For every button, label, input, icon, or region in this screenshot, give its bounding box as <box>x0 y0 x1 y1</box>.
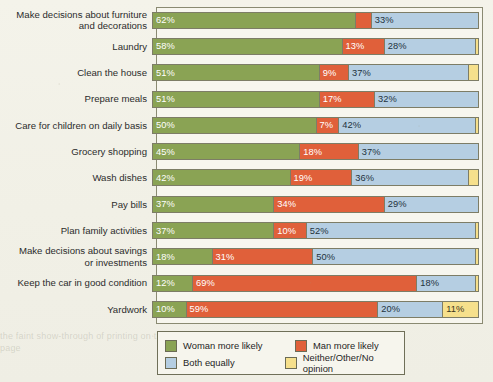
bar-segment-other[interactable]: 11% <box>442 302 478 317</box>
bar-segment-other[interactable] <box>475 223 478 238</box>
segment-value-label: 19% <box>291 173 313 183</box>
bar-segment-both[interactable]: 29% <box>384 197 478 212</box>
category-label: Care for children on daily basis <box>0 120 152 131</box>
bar-segment-both[interactable]: 33% <box>371 13 478 28</box>
bar-segment-man[interactable]: 69% <box>192 276 416 291</box>
bar-segment-other[interactable] <box>468 170 478 185</box>
segment-value-label: 50% <box>153 120 175 130</box>
bar-segment-both[interactable]: 32% <box>374 92 478 107</box>
segment-value-label: 37% <box>153 199 175 209</box>
legend-item-man[interactable]: Man more likely <box>295 340 379 352</box>
bar-segment-both[interactable]: 36% <box>351 170 468 185</box>
segment-value-label: 58% <box>153 41 175 51</box>
category-label: Yardwork <box>0 304 152 315</box>
stacked-bar[interactable]: 18%31%50% <box>152 248 479 265</box>
category-label: Clean the house <box>0 67 152 78</box>
bar-segment-both[interactable]: 18% <box>416 276 475 291</box>
legend-swatch-both-icon <box>165 357 177 369</box>
legend-item-woman[interactable]: Woman more likely <box>165 340 295 352</box>
bar-segment-both[interactable]: 20% <box>377 302 442 317</box>
bar-segment-other[interactable] <box>475 118 478 133</box>
bar-segment-woman[interactable]: 58% <box>153 39 342 54</box>
stacked-bar[interactable]: 12%69%18% <box>152 275 479 292</box>
stacked-bar[interactable]: 37%10%52% <box>152 222 479 239</box>
bar-segment-other[interactable] <box>468 65 478 80</box>
category-label: Prepare meals <box>0 93 152 104</box>
legend-swatch-man-icon <box>295 340 307 352</box>
bar-segment-man[interactable]: 7% <box>316 118 339 133</box>
chart-row: Make decisions about furniture and decor… <box>0 7 493 33</box>
chart-row: Plan family activities37%10%52% <box>0 217 493 243</box>
bar-segment-other[interactable] <box>475 249 478 264</box>
bar-segment-woman[interactable]: 37% <box>153 223 273 238</box>
bar-segment-other[interactable] <box>475 276 478 291</box>
segment-value-label: 20% <box>378 304 400 314</box>
legend-label-woman: Woman more likely <box>183 340 263 351</box>
bar-segment-both[interactable]: 50% <box>312 249 475 264</box>
stacked-bar[interactable]: 51%17%32% <box>152 91 479 108</box>
bar-segment-man[interactable]: 34% <box>273 197 384 212</box>
legend-item-other[interactable]: Neither/Other/No opinion <box>285 352 397 374</box>
legend-label-other: Neither/Other/No opinion <box>303 352 397 374</box>
bar-segment-both[interactable]: 52% <box>306 223 475 238</box>
bar-segment-man[interactable]: 31% <box>212 249 313 264</box>
bar-segment-man[interactable]: 9% <box>319 65 348 80</box>
segment-value-label: 29% <box>385 199 407 209</box>
segment-value-label: 9% <box>320 68 337 78</box>
bar-segment-man[interactable]: 17% <box>319 92 374 107</box>
chart-row: Make decisions about savings or investme… <box>0 244 493 270</box>
stacked-bar[interactable]: 62%33% <box>152 12 479 29</box>
bar-segment-woman[interactable]: 18% <box>153 249 212 264</box>
segment-value-label: 37% <box>349 68 371 78</box>
segment-value-label: 34% <box>274 199 296 209</box>
bar-segment-man[interactable]: 13% <box>342 39 384 54</box>
segment-value-label: 42% <box>339 120 361 130</box>
bar-segment-woman[interactable]: 51% <box>153 65 319 80</box>
segment-value-label: 10% <box>153 304 175 314</box>
stacked-bar[interactable]: 51%9%37% <box>152 64 479 81</box>
stacked-bar[interactable]: 42%19%36% <box>152 169 479 186</box>
chart-row: Pay bills37%34%29% <box>0 191 493 217</box>
stacked-bar[interactable]: 58%13%28% <box>152 38 479 55</box>
segment-value-label: 32% <box>375 94 397 104</box>
segment-value-label: 17% <box>320 94 342 104</box>
bar-segment-both[interactable]: 28% <box>384 39 475 54</box>
bar-segment-man[interactable]: 19% <box>290 170 352 185</box>
legend-row: Both equally Neither/Other/No opinion <box>165 354 397 371</box>
bar-segment-both[interactable]: 42% <box>338 118 475 133</box>
chart-row: Clean the house51%9%37% <box>0 60 493 86</box>
stacked-bar[interactable]: 45%18%37% <box>152 143 479 160</box>
bar-segment-man[interactable]: 59% <box>186 302 378 317</box>
bar-segment-woman[interactable]: 10% <box>153 302 186 317</box>
bar-segment-woman[interactable]: 62% <box>153 13 355 28</box>
stacked-bar[interactable]: 37%34%29% <box>152 196 479 213</box>
chart-row: Yardwork10%59%20%11% <box>0 296 493 322</box>
bar-segment-woman[interactable]: 51% <box>153 92 319 107</box>
segment-value-label: 18% <box>153 252 175 262</box>
bar-segment-woman[interactable]: 42% <box>153 170 290 185</box>
bar-segment-woman[interactable]: 12% <box>153 276 192 291</box>
segment-value-label: 10% <box>274 226 296 236</box>
category-label: Grocery shopping <box>0 146 152 157</box>
segment-value-label: 69% <box>193 278 215 288</box>
chart-legend: Woman more likely Man more likely Both e… <box>157 331 405 375</box>
segment-value-label: 52% <box>307 226 329 236</box>
segment-value-label: 33% <box>372 15 394 25</box>
bar-segment-man[interactable] <box>355 13 371 28</box>
chart-row: Wash dishes42%19%36% <box>0 165 493 191</box>
bar-segment-man[interactable]: 10% <box>273 223 306 238</box>
category-label: Wash dishes <box>0 172 152 183</box>
bar-segment-both[interactable]: 37% <box>348 65 468 80</box>
bar-segment-other[interactable] <box>475 39 478 54</box>
segment-value-label: 42% <box>153 173 175 183</box>
bar-segment-woman[interactable]: 37% <box>153 197 273 212</box>
bar-segment-both[interactable]: 37% <box>358 144 478 159</box>
segment-value-label: 11% <box>443 304 464 314</box>
bar-segment-woman[interactable]: 45% <box>153 144 299 159</box>
bar-segment-man[interactable]: 18% <box>299 144 358 159</box>
bar-segment-woman[interactable]: 50% <box>153 118 316 133</box>
stacked-bar[interactable]: 10%59%20%11% <box>152 301 479 318</box>
segment-value-label: 7% <box>317 120 334 130</box>
legend-item-both[interactable]: Both equally <box>165 357 285 369</box>
stacked-bar[interactable]: 50%7%42% <box>152 117 479 134</box>
